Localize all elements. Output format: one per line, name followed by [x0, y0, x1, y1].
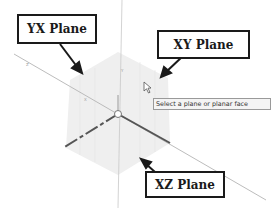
xz-plane-callout: XZ Plane [145, 171, 225, 198]
mouse-cursor-icon [143, 81, 152, 94]
selection-tooltip: Select a plane or planar face [153, 98, 271, 110]
svg-text:X: X [84, 97, 87, 102]
xy-plane-callout: XY Plane [157, 30, 250, 59]
origin-point[interactable] [115, 111, 122, 118]
xy-plane-label: XY Plane [174, 38, 234, 52]
svg-text:Z: Z [26, 62, 29, 67]
yx-plane-callout: YX Plane [17, 14, 97, 44]
svg-text:Y: Y [120, 68, 124, 73]
graphics-viewport[interactable]: Z Y X YX Plane XY Plane XZ Plane Select … [0, 0, 274, 208]
yx-plane-label: YX Plane [27, 22, 87, 36]
xz-plane-label: XZ Plane [155, 178, 215, 192]
